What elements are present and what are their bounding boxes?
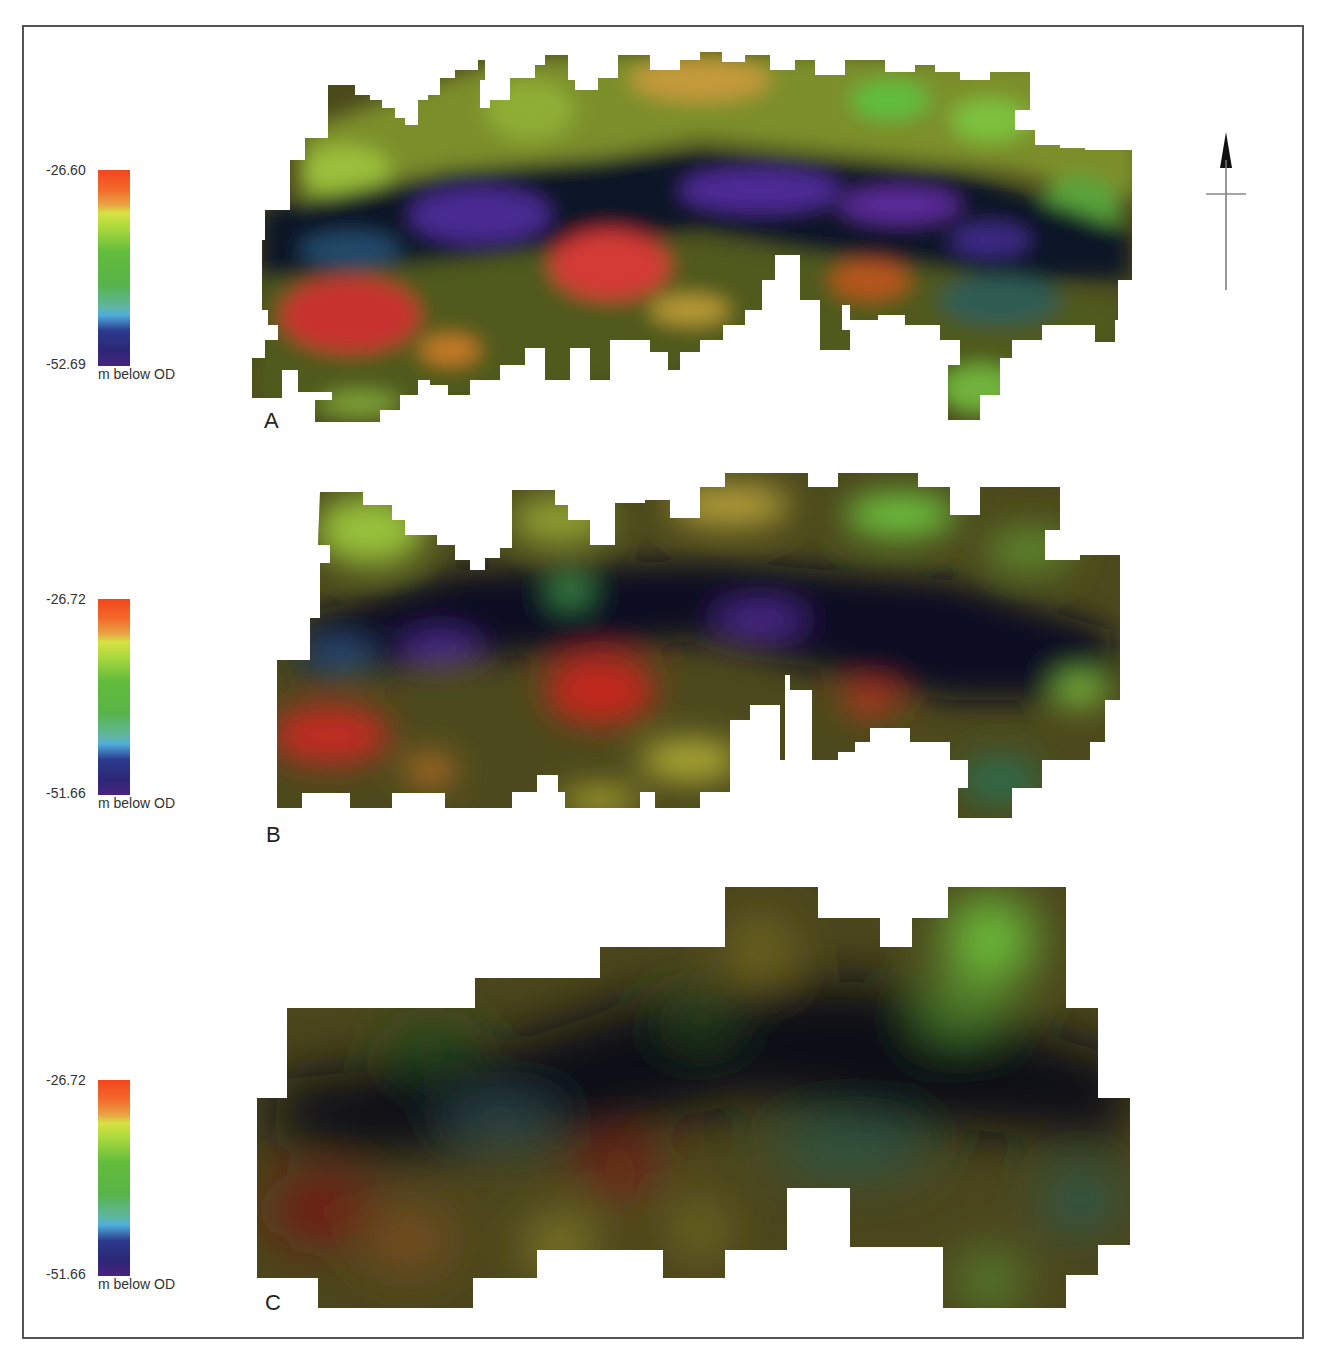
map-panel-c (0, 0, 1322, 1358)
panel-label-c: C (265, 1290, 281, 1316)
